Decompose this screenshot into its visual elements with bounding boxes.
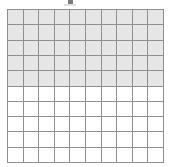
grid-cell: [39, 148, 55, 163]
grid-cell: [102, 56, 118, 71]
grid-cell: [133, 56, 149, 71]
grid-cell: [102, 117, 118, 132]
grid-cell: [133, 102, 149, 117]
grid-cell: [133, 25, 149, 40]
grid-cell: [102, 25, 118, 40]
grid-cell: [70, 41, 86, 56]
grid-cell: [148, 148, 164, 163]
grid-cell: [70, 148, 86, 163]
grid-cell: [39, 132, 55, 147]
grid-cell: [102, 132, 118, 147]
grid-cell: [24, 148, 40, 163]
grid-cell: [24, 87, 40, 102]
grid-cell: [70, 10, 86, 25]
grid-cell: [70, 56, 86, 71]
grid-cell: [55, 56, 71, 71]
grid-cell: [133, 41, 149, 56]
grid-cell: [8, 25, 24, 40]
grid-cell: [133, 132, 149, 147]
grid-cell: [55, 25, 71, 40]
grid-cell: [55, 71, 71, 86]
grid-cell: [70, 25, 86, 40]
grid-cell: [102, 71, 118, 86]
grid-cell: [148, 56, 164, 71]
grid-cell: [117, 117, 133, 132]
grid-cell: [24, 41, 40, 56]
grid-cell: [86, 132, 102, 147]
grid-cell: [39, 102, 55, 117]
figure-canvas: [0, 0, 175, 167]
grid-cell: [8, 117, 24, 132]
grid-cell: [86, 87, 102, 102]
grid-cell: [102, 10, 118, 25]
grid-cell: [86, 71, 102, 86]
grid-cell: [39, 117, 55, 132]
grid-cell: [8, 71, 24, 86]
grid-cell: [102, 148, 118, 163]
grid-cell: [8, 102, 24, 117]
grid-cell: [117, 41, 133, 56]
grid-cell: [55, 102, 71, 117]
grid-cell: [133, 117, 149, 132]
grid-cell: [39, 87, 55, 102]
grid-cell: [133, 87, 149, 102]
grid-cell: [117, 132, 133, 147]
grid-cell: [70, 102, 86, 117]
grid-cell: [86, 41, 102, 56]
grid-cell: [39, 56, 55, 71]
grid-cell: [117, 102, 133, 117]
grid-cell: [55, 10, 71, 25]
grid-cell: [148, 25, 164, 40]
grid-cell: [148, 71, 164, 86]
grid-cell: [70, 87, 86, 102]
grid-cell: [70, 117, 86, 132]
grid-cell: [86, 117, 102, 132]
grid-cell: [8, 41, 24, 56]
grid-cell: [24, 102, 40, 117]
grid-cell: [8, 56, 24, 71]
grid-cell: [102, 87, 118, 102]
grid-cell: [8, 148, 24, 163]
grid-cell: [39, 71, 55, 86]
grid-cell: [133, 10, 149, 25]
grid-cell: [86, 25, 102, 40]
grid-cell: [39, 25, 55, 40]
grid-cell: [24, 25, 40, 40]
grid-cell: [24, 71, 40, 86]
grid-cell: [117, 148, 133, 163]
grid-cell: [70, 71, 86, 86]
grid-cell: [117, 71, 133, 86]
grid-cell: [24, 117, 40, 132]
grid-cell: [86, 148, 102, 163]
grid-cell: [117, 56, 133, 71]
grid-cell: [148, 132, 164, 147]
grid-cell: [148, 10, 164, 25]
grid-cell: [117, 25, 133, 40]
grid-cell: [8, 10, 24, 25]
grid-cell: [8, 87, 24, 102]
grid-cell: [24, 132, 40, 147]
grid-cell: [24, 10, 40, 25]
top-edge-mark-tail-icon: [64, 4, 76, 6]
grid-cell: [39, 10, 55, 25]
grid-cell: [133, 71, 149, 86]
grid-cell: [39, 41, 55, 56]
grid-cell: [148, 41, 164, 56]
grid-cell: [55, 117, 71, 132]
grid-cell: [148, 117, 164, 132]
hundred-grid: [7, 9, 164, 163]
grid-cell: [148, 102, 164, 117]
grid-cell: [133, 148, 149, 163]
grid-cell: [86, 10, 102, 25]
grid-cell: [102, 41, 118, 56]
grid-cell: [55, 41, 71, 56]
grid-cell: [24, 56, 40, 71]
grid-cell: [8, 132, 24, 147]
grid-cell: [55, 148, 71, 163]
grid-cell: [55, 87, 71, 102]
grid-cell: [86, 56, 102, 71]
grid-cell: [117, 87, 133, 102]
grid-cell: [117, 10, 133, 25]
grid-cell: [70, 132, 86, 147]
grid-cell: [55, 132, 71, 147]
